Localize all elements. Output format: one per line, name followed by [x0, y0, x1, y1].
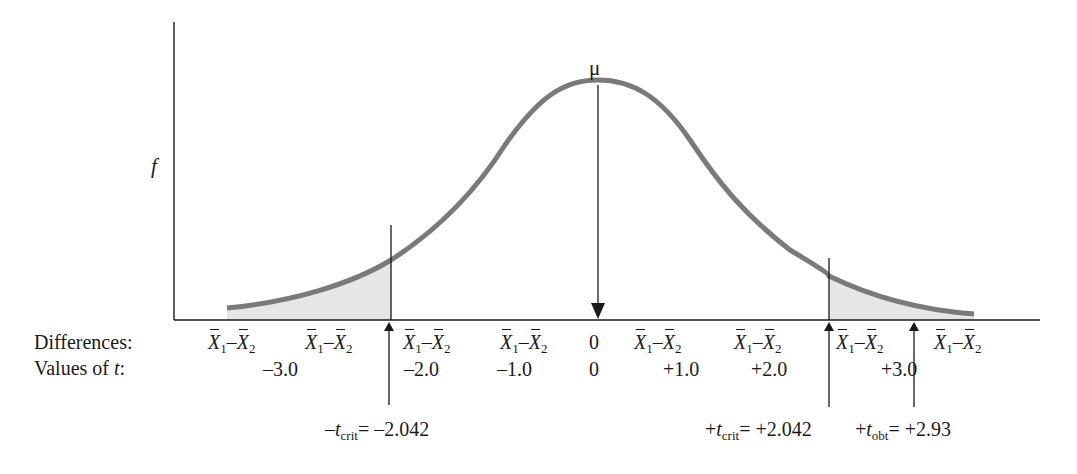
t-value-tick: 0: [589, 359, 599, 379]
pos-crit-arrow-head: [824, 322, 834, 331]
t-value-tick: +1.0: [663, 359, 699, 379]
x2-bar: X: [432, 332, 444, 352]
t-distribution-curve: [227, 80, 974, 314]
x1-bar: X: [634, 332, 646, 352]
obt-label: +tobt= +2.93: [855, 419, 951, 442]
neg-crit-label: –tcrit= –2.042: [325, 419, 429, 442]
difference-term: X1–X2: [836, 332, 883, 355]
t-value-tick: +2.0: [751, 359, 787, 379]
x2-bar: X: [334, 332, 346, 352]
x1-bar: X: [836, 332, 848, 352]
difference-term: X1–X2: [403, 332, 450, 355]
neg-crit-value: = –2.042: [358, 418, 429, 440]
x1-bar: X: [403, 332, 415, 352]
pos-crit-value: = +2.042: [739, 418, 812, 440]
obt-value: = +2.93: [888, 418, 951, 440]
mean-label: μ: [589, 58, 600, 79]
difference-term: X1–X2: [934, 332, 981, 355]
x2-bar: X: [865, 332, 877, 352]
difference-term: X1–X2: [500, 332, 547, 355]
difference-term: X1–X2: [734, 332, 781, 355]
differences-row-label: Differences:: [34, 332, 132, 352]
mean-arrow-head: [591, 303, 605, 319]
x2-bar: X: [963, 332, 975, 352]
right-rejection-region: [760, 230, 974, 320]
difference-term: X1–X2: [208, 332, 255, 355]
x1-bar: X: [734, 332, 746, 352]
x2-bar: X: [763, 332, 775, 352]
x1-bar: X: [934, 332, 946, 352]
left-rejection-region: [227, 185, 470, 320]
t-distribution-diagram: [0, 0, 1077, 474]
difference-zero: 0: [589, 332, 599, 352]
x1-bar: X: [208, 332, 220, 352]
y-axis-label: f: [151, 156, 157, 177]
x2-bar: X: [663, 332, 675, 352]
difference-term: X1–X2: [305, 332, 352, 355]
difference-term: X1–X2: [634, 332, 681, 355]
t-value-tick: –2.0: [404, 359, 439, 379]
x2-bar: X: [237, 332, 249, 352]
t-values-label-prefix: Values of: [34, 357, 114, 379]
t-value-tick: –1.0: [497, 359, 532, 379]
t-value-tick: +3.0: [881, 359, 917, 379]
t-values-row-label: Values of t:: [34, 358, 125, 378]
obt-arrow-head: [909, 322, 919, 331]
x2-bar: X: [529, 332, 541, 352]
t-values-label-suffix: :: [120, 357, 126, 379]
x1-bar: X: [305, 332, 317, 352]
t-value-tick: –3.0: [263, 359, 298, 379]
neg-crit-arrow-head: [384, 322, 394, 331]
pos-crit-label: +tcrit= +2.042: [705, 419, 812, 442]
x1-bar: X: [500, 332, 512, 352]
